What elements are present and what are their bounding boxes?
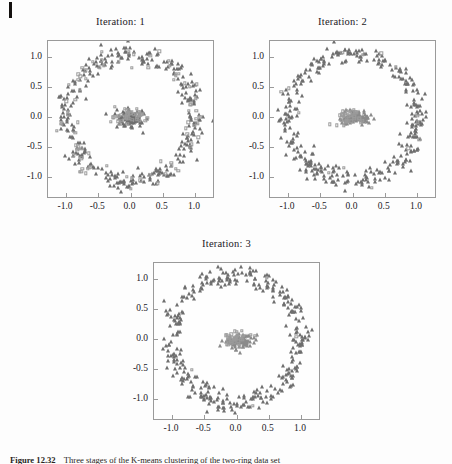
data-point-triangle <box>77 160 81 164</box>
data-point-triangle <box>336 178 340 182</box>
x-axis-tick-label: 0.0 <box>124 201 136 211</box>
data-point-triangle <box>254 287 258 291</box>
data-point-triangle <box>305 177 309 181</box>
data-point-triangle <box>344 59 348 63</box>
plot-frame <box>47 40 214 198</box>
data-point-square <box>156 182 159 185</box>
data-point-triangle <box>420 97 424 101</box>
panel-title: Iteration: 1 <box>18 16 223 27</box>
data-point-square <box>60 121 63 124</box>
data-point-triangle <box>186 394 190 398</box>
data-point-triangle <box>287 366 291 370</box>
data-point-triangle <box>281 290 285 294</box>
data-point-triangle <box>157 64 161 68</box>
data-point-triangle <box>238 350 242 354</box>
data-point-square <box>67 83 70 86</box>
data-point-triangle <box>198 88 202 92</box>
data-point-triangle <box>285 140 289 144</box>
figure-caption: Figure 12.32 Three stages of the K-means… <box>10 455 440 464</box>
data-point-triangle <box>241 403 245 407</box>
x-axis-tick-label: -0.5 <box>196 423 211 433</box>
data-point-triangle <box>372 116 376 120</box>
x-axis-tick <box>353 193 354 197</box>
data-point-square <box>130 118 133 121</box>
data-point-triangle <box>369 170 373 174</box>
data-point-triangle <box>59 126 63 130</box>
data-point-triangle <box>388 62 392 66</box>
data-point-triangle <box>189 118 193 122</box>
data-point-square <box>117 60 120 63</box>
data-point-triangle <box>404 67 408 71</box>
data-point-triangle <box>169 315 173 319</box>
data-point-triangle <box>207 402 211 406</box>
data-point-square <box>167 59 170 62</box>
x-axis-tick <box>204 415 205 419</box>
data-point-square <box>342 166 345 169</box>
data-point-triangle <box>211 118 214 122</box>
data-point-triangle <box>84 97 88 101</box>
data-point-triangle <box>372 58 376 62</box>
data-point-triangle <box>70 123 74 127</box>
data-point-triangle <box>303 70 307 74</box>
data-point-triangle <box>357 60 361 64</box>
data-point-triangle <box>312 144 316 148</box>
data-point-triangle <box>115 175 119 179</box>
data-point-triangle <box>335 50 339 54</box>
data-point-square <box>342 113 345 116</box>
data-point-triangle <box>189 72 193 76</box>
data-point-square <box>109 120 112 123</box>
data-point-triangle <box>380 170 384 174</box>
data-point-square <box>195 117 198 120</box>
y-axis-tick-label: 1.0 <box>252 51 264 61</box>
x-axis-tick-label: 0.5 <box>156 201 168 211</box>
data-point-triangle <box>414 127 418 131</box>
data-point-square <box>295 335 298 338</box>
data-point-square <box>416 120 419 123</box>
data-point-square <box>361 53 364 56</box>
data-point-triangle <box>365 59 369 63</box>
y-axis-tick <box>48 57 52 58</box>
data-point-triangle <box>104 112 108 116</box>
data-point-triangle <box>282 301 286 305</box>
data-point-square <box>123 107 126 110</box>
y-axis-tick <box>48 87 52 88</box>
data-point-square <box>88 165 91 168</box>
data-point-triangle <box>286 371 290 375</box>
data-point-square <box>74 131 77 134</box>
data-point-triangle <box>260 384 264 388</box>
plot-area <box>270 41 435 197</box>
data-point-triangle <box>94 172 98 176</box>
data-point-square <box>125 175 128 178</box>
data-point-triangle <box>259 396 263 400</box>
data-point-square <box>139 178 142 181</box>
data-point-triangle <box>179 360 183 364</box>
data-point-square <box>66 110 69 113</box>
data-point-triangle <box>110 64 114 68</box>
data-point-triangle <box>155 53 159 57</box>
data-point-triangle <box>174 353 178 357</box>
y-axis-tick-label: -1.0 <box>133 393 148 403</box>
y-axis-tick-label: -1.0 <box>249 171 264 181</box>
data-point-triangle <box>313 176 317 180</box>
data-point-square <box>120 113 123 116</box>
x-axis-tick-label: -1.0 <box>280 201 295 211</box>
data-point-triangle <box>217 390 221 394</box>
data-point-triangle <box>200 286 204 290</box>
data-point-square <box>359 121 362 124</box>
data-point-triangle <box>195 157 199 161</box>
data-point-triangle <box>172 172 176 176</box>
data-point-triangle <box>60 104 64 108</box>
y-axis-tick <box>154 369 158 370</box>
data-point-triangle <box>284 295 288 299</box>
data-point-triangle <box>360 182 364 186</box>
data-point-triangle <box>306 164 310 168</box>
data-point-triangle <box>308 68 312 72</box>
y-axis-tick-label: -1.0 <box>27 171 42 181</box>
data-point-triangle <box>383 160 387 164</box>
data-point-triangle <box>265 286 269 290</box>
data-point-triangle <box>410 112 414 116</box>
data-point-triangle <box>420 121 424 125</box>
data-point-square <box>240 329 243 332</box>
data-point-triangle <box>365 176 369 180</box>
data-point-triangle <box>272 300 276 304</box>
